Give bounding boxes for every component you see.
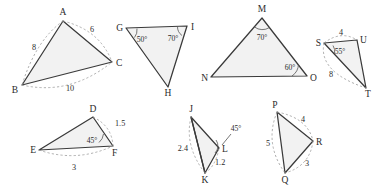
vertex-label-n: N	[201, 73, 208, 83]
vertex-label-o: O	[310, 73, 317, 83]
angle-l: 45°	[231, 124, 242, 133]
measure-qr: 3	[305, 159, 309, 168]
measure-su: 4	[339, 28, 343, 37]
measure-bc: 10	[66, 84, 74, 93]
vertex-label-l: L	[222, 144, 228, 154]
vertex-label-k: K	[202, 175, 209, 185]
angle-g: 50°	[137, 35, 148, 44]
vertex-label-j: J	[189, 104, 193, 114]
triangle-pqr: P Q R 4 5 3	[266, 100, 323, 185]
vertex-label-f: F	[112, 148, 117, 158]
triangle-ghi: G H I 50° 70°	[116, 22, 194, 98]
vertex-label-i: I	[191, 22, 194, 32]
vertex-label-t: T	[365, 89, 371, 99]
vertex-label-e: E	[30, 145, 36, 155]
vertex-label-b: B	[12, 85, 18, 95]
measure-st: 8	[329, 70, 333, 79]
measure-pr: 4	[301, 115, 305, 124]
vertex-label-u: U	[360, 35, 367, 45]
triangle-def-fill	[39, 117, 113, 150]
vertex-label-m: M	[258, 4, 267, 14]
triangle-stu: S T U 4 8 55°	[316, 28, 371, 99]
triangles-figure: A B C 8 6 10 G H I 50° 70° M N O 70° 60°	[0, 0, 378, 188]
measure-jk: 2.4	[178, 144, 188, 153]
triangle-jkl: J K L 2.4 1.2 45°	[178, 104, 242, 185]
angle-m: 70°	[257, 33, 268, 42]
measure-kl: 1.2	[215, 158, 225, 167]
measure-df: 1.5	[115, 119, 125, 128]
triangle-def: D E F 1.5 3 45°	[30, 104, 125, 172]
diagram-canvas: A B C 8 6 10 G H I 50° 70° M N O 70° 60°	[0, 0, 378, 188]
vertex-label-p: P	[272, 100, 277, 110]
angle-i: 70°	[168, 34, 179, 43]
vertex-label-d: D	[90, 104, 97, 114]
angle-o: 60°	[285, 63, 296, 72]
vertex-label-s: S	[316, 38, 321, 48]
triangle-abc: A B C 8 6 10	[12, 7, 123, 95]
vertex-label-r: R	[316, 137, 323, 147]
vertex-label-a: A	[60, 7, 67, 17]
vertex-label-g: G	[116, 23, 123, 33]
angle-f: 45°	[87, 136, 98, 145]
vertex-label-c: C	[116, 58, 122, 68]
triangle-mno: M N O 70° 60°	[201, 4, 317, 83]
angle-s: 55°	[335, 47, 346, 56]
measure-ac: 6	[90, 25, 94, 34]
triangle-abc-fill	[22, 21, 112, 85]
measure-pq: 5	[266, 139, 270, 148]
vertex-label-q: Q	[282, 175, 289, 185]
measure-ef: 3	[72, 163, 76, 172]
measure-ab: 8	[32, 43, 36, 52]
vertex-label-h: H	[165, 88, 172, 98]
